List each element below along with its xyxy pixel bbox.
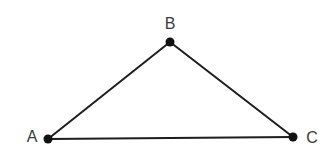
edges (48, 42, 293, 139)
vertex-b-dot (166, 38, 175, 47)
vertex-b-label: B (165, 15, 176, 32)
triangle-diagram: A B C (0, 0, 332, 150)
vertices (44, 38, 298, 144)
vertex-a-dot (44, 135, 53, 144)
labels: A B C (27, 15, 318, 146)
vertex-c-label: C (306, 129, 318, 146)
vertex-c-dot (289, 133, 298, 142)
edge-b-c (170, 42, 293, 137)
vertex-a-label: A (27, 128, 38, 145)
edge-a-c (48, 137, 293, 139)
edge-a-b (48, 42, 170, 139)
